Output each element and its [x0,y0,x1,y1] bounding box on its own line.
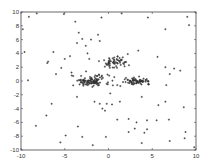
x-tick-label: -5 [62,153,68,159]
x-tick-label: 5 [151,153,155,159]
scatter-chart: -10-50510 -10-8-6-4-20246810 [0,0,210,165]
y-tick-label: 10 [12,9,19,15]
y-tick-label: 8 [16,23,20,29]
plot-area [21,12,196,150]
y-tick-label: -2 [14,92,20,98]
y-tick-label: -4 [14,106,20,112]
y-tick-label: 4 [16,50,20,56]
x-tick-label: -10 [17,153,26,159]
y-tick-label: 6 [16,37,20,43]
x-tick-label: 0 [107,153,111,159]
y-tick-label: -8 [14,133,20,139]
y-tick-label: -6 [14,119,20,125]
y-tick-label: -10 [10,147,19,153]
x-tick-label: 10 [193,153,200,159]
y-tick-label: 0 [16,78,20,84]
y-tick-label: 2 [16,64,20,70]
